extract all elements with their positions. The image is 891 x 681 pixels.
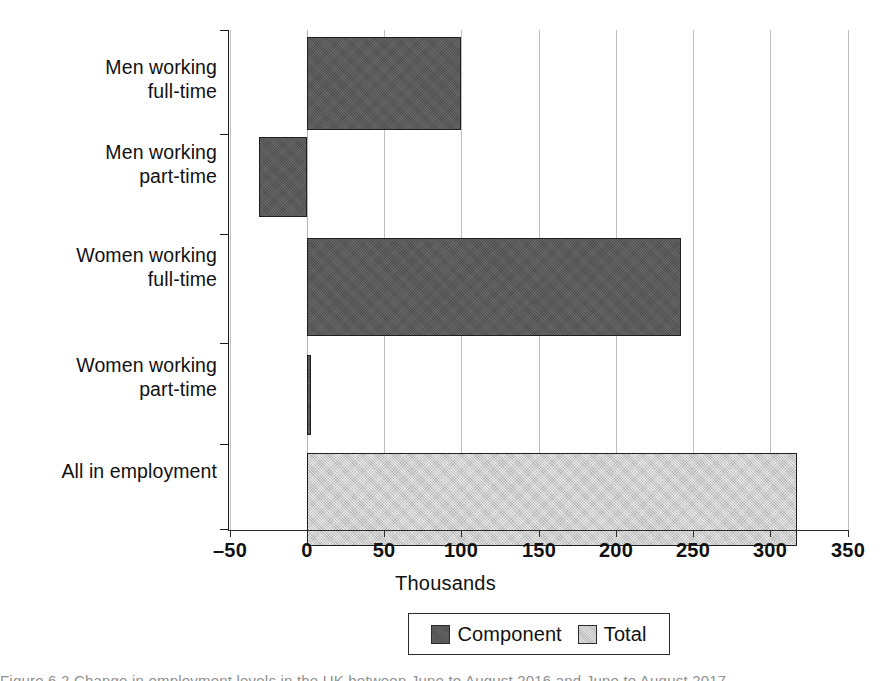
figure-caption: Figure 6.2 Change in employment levels i…: [0, 672, 891, 681]
x-tick-350: [848, 530, 849, 537]
x-tick-label-150: 150: [522, 539, 556, 562]
category-label-men-part-time: Men working part-time: [105, 140, 217, 188]
x-tick-150: [539, 530, 540, 537]
x-tick-300: [770, 530, 771, 537]
category-axis: [228, 30, 229, 530]
value-axis-line: [228, 530, 848, 531]
bar-chart-figure: Men working full-time Men working part-t…: [0, 0, 891, 681]
bar-women-part-time: [307, 355, 311, 435]
category-tick-0: [220, 30, 229, 31]
x-tick-minus50: [230, 530, 231, 537]
x-tick-label-100: 100: [444, 539, 478, 562]
x-tick-200: [616, 530, 617, 537]
gridline-minus50: [230, 30, 231, 530]
bar-men-full-time: [307, 37, 461, 130]
category-label-women-full-time: Women working full-time: [76, 243, 217, 291]
x-tick-label-200: 200: [599, 539, 633, 562]
gridline-350: [848, 30, 849, 530]
x-tick-100: [461, 530, 462, 537]
x-tick-0: [307, 530, 308, 537]
bar-men-part-time: [259, 137, 307, 217]
bar-all-in-employment: [307, 453, 797, 546]
category-tick-3: [220, 343, 229, 344]
x-tick-label-300: 300: [753, 539, 787, 562]
plot-area: [228, 30, 891, 530]
x-tick-50: [384, 530, 385, 537]
category-tick-2: [220, 234, 229, 235]
category-tick-4: [220, 444, 229, 445]
legend-label-component: Component: [457, 623, 561, 646]
legend-entry-component: Component: [431, 623, 561, 646]
x-tick-label-250: 250: [676, 539, 710, 562]
bar-women-full-time: [307, 238, 681, 336]
x-axis-title: Thousands: [0, 572, 891, 595]
category-label-men-full-time: Men working full-time: [105, 55, 217, 103]
legend-entry-total: Total: [578, 623, 647, 646]
x-tick-label-50: 50: [373, 539, 396, 562]
chart-legend: Component Total: [408, 613, 670, 655]
x-tick-label-minus50: –50: [213, 539, 247, 562]
x-tick-label-0: 0: [301, 539, 312, 562]
legend-label-total: Total: [604, 623, 647, 646]
category-tick-1: [220, 134, 229, 135]
x-tick-label-350: 350: [831, 539, 865, 562]
legend-swatch-component-icon: [431, 625, 450, 644]
x-tick-250: [693, 530, 694, 537]
category-label-women-part-time: Women working part-time: [76, 353, 217, 401]
category-label-all-in-employment: All in employment: [61, 459, 217, 483]
legend-swatch-total-icon: [578, 625, 597, 644]
